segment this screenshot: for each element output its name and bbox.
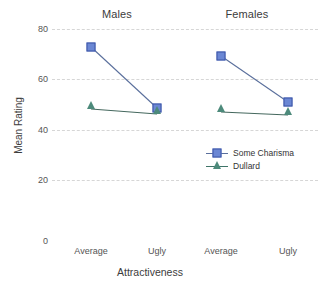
x-axis-tick-labels: Average Ugly Average Ugly	[52, 0, 318, 289]
x-tick-females-ugly: Ugly	[253, 246, 323, 256]
y-axis-tick-labels: 80 60 40 20 0	[0, 0, 48, 289]
y-tick-60: 60	[4, 74, 48, 84]
legend: Some Charisma Dullard	[206, 146, 294, 172]
y-tick-40: 40	[4, 125, 48, 135]
x-tick-males-average: Average	[56, 246, 126, 256]
legend-marker-square-icon	[206, 147, 228, 159]
x-tick-females-average: Average	[186, 246, 256, 256]
legend-marker-triangle-icon	[206, 160, 228, 172]
legend-label-some-charisma: Some Charisma	[233, 147, 294, 159]
legend-label-dullard: Dullard	[233, 160, 260, 172]
x-axis-title: Attractiveness	[60, 266, 240, 278]
y-tick-0: 0	[4, 236, 48, 246]
y-tick-80: 80	[4, 24, 48, 34]
x-tick-males-ugly: Ugly	[122, 246, 192, 256]
interaction-plot-figure: Males Females Mean Rating 80 60 40 20 0	[0, 0, 327, 289]
y-tick-20: 20	[4, 175, 48, 185]
legend-item-dullard: Dullard	[206, 159, 294, 172]
legend-item-some-charisma: Some Charisma	[206, 146, 294, 159]
